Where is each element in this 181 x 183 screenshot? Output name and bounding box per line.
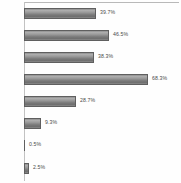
- bar-value-label-1: 46.5%: [113, 32, 128, 37]
- bar-row: 2.5%: [24, 157, 45, 179]
- bar-row: 46.5%: [24, 24, 128, 46]
- bar-row: 68.3%: [24, 68, 167, 90]
- bar-value-label-4: 28.7%: [80, 98, 95, 103]
- bar-value-label-5: 9.3%: [45, 120, 57, 125]
- bar-row: 0.5%: [24, 134, 41, 156]
- bar-3: [24, 74, 148, 85]
- bar-value-label-7: 2.5%: [33, 165, 45, 170]
- horizontal-bar-chart: 39.7% 46.5% 38.3% 68.3% 28.7% 9.3% 0.5%: [0, 0, 181, 183]
- bar-row: 38.3%: [24, 46, 113, 68]
- bar-value-label-3: 68.3%: [152, 76, 167, 81]
- bar-7: [24, 163, 29, 174]
- bar-value-label-6: 0.5%: [29, 142, 41, 147]
- bar-2: [24, 52, 94, 63]
- bar-1: [24, 30, 109, 41]
- bar-0: [24, 8, 96, 19]
- bar-value-label-2: 38.3%: [98, 54, 113, 59]
- bar-value-label-0: 39.7%: [100, 10, 115, 15]
- bar-row: 28.7%: [24, 90, 95, 112]
- bar-4: [24, 96, 76, 107]
- bar-row: 9.3%: [24, 112, 57, 134]
- bar-5: [24, 118, 41, 129]
- plot-area: 39.7% 46.5% 38.3% 68.3% 28.7% 9.3% 0.5%: [0, 0, 181, 183]
- bar-6: [24, 140, 25, 151]
- bar-row: 39.7%: [24, 2, 115, 24]
